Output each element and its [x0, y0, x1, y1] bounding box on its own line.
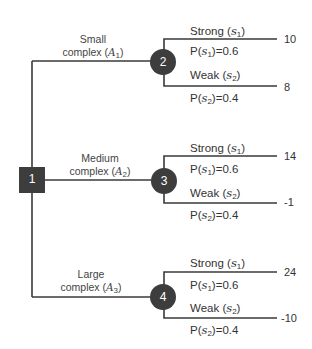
- payoff-value: 8: [284, 81, 290, 93]
- probability-label: P(s2)=0.4: [190, 208, 238, 226]
- payoff-value: -1: [284, 196, 294, 208]
- probability-label: P(s2)=0.4: [190, 91, 238, 109]
- outcome-label: Weak (s2): [190, 68, 240, 86]
- alternative-label-a2: Medium complex (A2): [55, 152, 145, 181]
- outcome-label: Strong (s1): [190, 141, 245, 159]
- decision-node-1-label: 1: [19, 172, 45, 186]
- outcome-label: Strong (s1): [190, 256, 245, 274]
- outcome-label: Strong (s1): [190, 24, 245, 42]
- chance-node-2-label: 2: [150, 55, 176, 69]
- chance-node-3-label: 3: [151, 174, 177, 188]
- payoff-value: 24: [284, 266, 296, 278]
- alternative-label-a3: Large complex (A3): [46, 268, 136, 297]
- outcome-label: Weak (s2): [190, 186, 240, 204]
- payoff-value: -10: [281, 312, 297, 324]
- probability-label: P(s1)=0.6: [190, 162, 238, 180]
- outcome-label: Weak (s2): [190, 301, 240, 319]
- probability-label: P(s1)=0.6: [190, 278, 238, 296]
- probability-label: P(s1)=0.6: [190, 44, 238, 62]
- chance-node-4-label: 4: [150, 290, 176, 304]
- payoff-value: 14: [284, 150, 296, 162]
- payoff-value: 10: [284, 33, 296, 45]
- alternative-label-a1: Small complex (A1): [48, 33, 138, 62]
- probability-label: P(s2)=0.4: [190, 323, 238, 341]
